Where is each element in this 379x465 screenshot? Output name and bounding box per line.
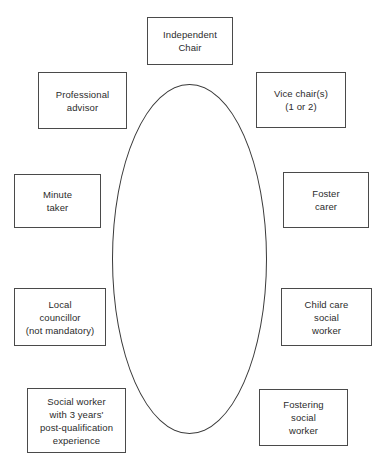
node-foster-carer-label: Foster carer	[312, 187, 340, 213]
node-fostering-social-worker-label: Fostering social worker	[283, 398, 324, 437]
node-experienced-social-worker-label: Social worker with 3 years' post-qualifi…	[40, 395, 113, 447]
node-fostering-social-worker[interactable]: Fostering social worker	[259, 389, 348, 446]
node-independent-chair-label: Independent Chair	[163, 28, 217, 54]
node-independent-chair[interactable]: Independent Chair	[147, 17, 233, 65]
node-local-councillor-label: Local councillor (not mandatory)	[26, 298, 95, 337]
node-vice-chairs-label: Vice chair(s) (1 or 2)	[274, 87, 328, 113]
fostering-panel-diagram: Independent Chair Professional advisor V…	[0, 0, 379, 465]
node-professional-advisor-label: Professional advisor	[56, 88, 109, 114]
node-minute-taker[interactable]: Minute taker	[14, 174, 101, 228]
node-experienced-social-worker[interactable]: Social worker with 3 years' post-qualifi…	[27, 388, 126, 453]
node-childcare-social-worker[interactable]: Child care social worker	[281, 288, 372, 346]
node-professional-advisor[interactable]: Professional advisor	[38, 72, 127, 129]
node-foster-carer[interactable]: Foster carer	[283, 172, 369, 228]
central-panel-ellipse	[112, 84, 267, 434]
node-minute-taker-label: Minute taker	[43, 188, 72, 214]
node-local-councillor[interactable]: Local councillor (not mandatory)	[14, 288, 106, 346]
node-childcare-social-worker-label: Child care social worker	[305, 298, 349, 337]
node-vice-chairs[interactable]: Vice chair(s) (1 or 2)	[256, 72, 346, 128]
